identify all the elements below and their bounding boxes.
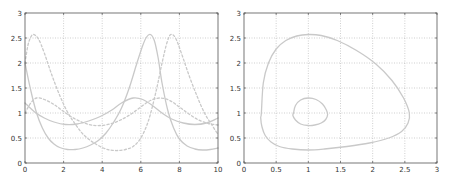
figure: 024681000.511.522.53 00.511.522.5300.511…	[0, 0, 450, 179]
x-tick-label: 2.5	[399, 166, 410, 174]
x-tick-label: 8	[177, 166, 181, 174]
x-tick-label: 0	[242, 166, 246, 174]
y-tick-label: 0	[18, 160, 22, 168]
x-tick-label: 0.5	[271, 166, 282, 174]
y-tick-label: 3	[18, 10, 22, 18]
x-tick-label: 0	[23, 166, 27, 174]
x-tick-label: 4	[100, 166, 105, 174]
x-tick-label: 2	[61, 166, 65, 174]
left-plot-time-series: 024681000.511.522.53	[11, 10, 223, 175]
y-tick-label: 2.5	[11, 35, 22, 43]
y-tick-label: 0.5	[11, 135, 22, 143]
plot-area	[25, 13, 218, 163]
right-plot-phase-portrait: 00.511.522.5300.511.522.53	[230, 10, 439, 175]
x-tick-label: 2	[370, 166, 374, 174]
x-tick-label: 1.5	[335, 166, 346, 174]
y-tick-label: 0	[237, 160, 241, 168]
y-tick-label: 3	[237, 10, 241, 18]
y-tick-label: 1.5	[230, 85, 241, 93]
y-tick-label: 2.5	[230, 35, 241, 43]
y-tick-label: 1.5	[11, 85, 22, 93]
y-tick-label: 2	[18, 60, 22, 68]
x-tick-label: 6	[139, 166, 144, 174]
y-tick-label: 1	[237, 110, 241, 118]
y-tick-label: 0.5	[230, 135, 241, 143]
x-tick-label: 3	[435, 166, 439, 174]
y-tick-label: 2	[237, 60, 241, 68]
x-tick-label: 1	[306, 166, 310, 174]
y-tick-label: 1	[18, 110, 22, 118]
x-tick-label: 10	[214, 166, 223, 174]
